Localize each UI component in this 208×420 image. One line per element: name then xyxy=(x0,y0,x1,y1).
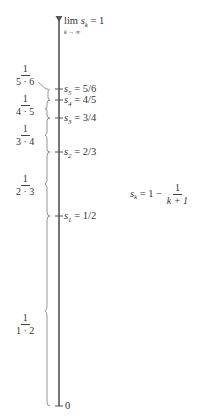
arrow-up-icon xyxy=(56,16,63,22)
partial-sum-s5: s5 = 5/6 xyxy=(64,84,96,95)
partial-sum-s3: s3 = 3/4 xyxy=(64,113,96,124)
term-fraction-4x5: 14 · 5 xyxy=(16,94,34,117)
partial-sum-s2: s2 = 2/3 xyxy=(64,147,96,158)
limit-subscript: k → ∞ xyxy=(64,29,80,35)
term-fraction-3x4: 13 · 4 xyxy=(16,124,34,147)
number-line-diagram xyxy=(0,0,208,420)
term-fraction-1x2: 11 · 2 xyxy=(16,313,34,336)
term-fraction-5x6: 15 · 6 xyxy=(16,64,34,87)
limit-label: lim sk = 1 xyxy=(64,16,104,27)
partial-sum-s4: s4 = 4/5 xyxy=(64,95,96,106)
zero-label: 0 xyxy=(65,401,70,412)
partial-sum-s1: s1 = 1/2 xyxy=(64,211,96,222)
formula-fraction: 1 k + 1 xyxy=(167,183,188,206)
term-fraction-2x3: 12 · 3 xyxy=(16,174,34,197)
braces xyxy=(38,82,50,406)
partial-sum-formula: sk = 1 − 1 k + 1 xyxy=(130,183,188,206)
